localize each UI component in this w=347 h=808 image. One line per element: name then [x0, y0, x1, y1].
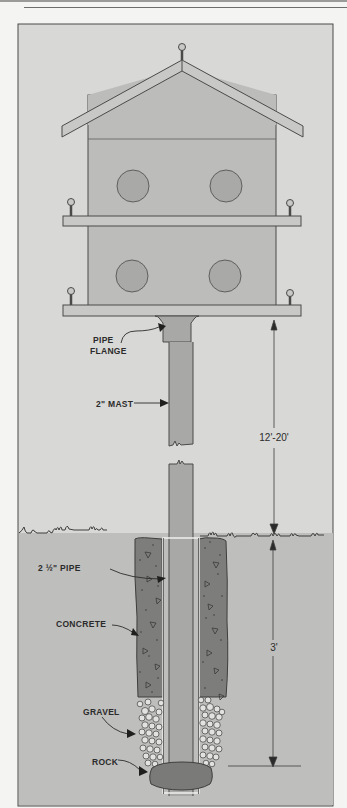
dimension-above-ground-label: 12'-20': [259, 432, 288, 443]
rail-post-icon: [68, 199, 75, 206]
entrance-hole: [210, 170, 242, 202]
pipe-flange-label-line1: PIPE: [93, 335, 114, 345]
mast-lower: [169, 460, 193, 796]
mast-upper: [169, 342, 193, 446]
rail-post-icon: [287, 200, 294, 207]
entrance-hole: [116, 260, 148, 292]
middle-porch-shelf: [63, 216, 301, 226]
rock-base: [150, 762, 213, 790]
concrete-left: [135, 538, 163, 697]
rail-post-icon: [287, 290, 294, 297]
dimension-below-ground-label: 3': [270, 642, 278, 653]
rock-label: ROCK: [92, 757, 119, 767]
pipe-flange-label-line2: FLANGE: [90, 346, 127, 356]
entrance-hole: [209, 260, 241, 292]
bottom-platform: [63, 305, 301, 316]
entrance-hole: [117, 170, 149, 202]
finial-ball-icon: [179, 44, 186, 51]
concrete-label: CONCRETE: [56, 619, 106, 629]
rail-post-icon: [68, 288, 75, 295]
gravel-label: GRAVEL: [83, 707, 120, 717]
birdhouse-diagram: 12'-20' 3' PIPE FLANGE 2" MAST 2 ½" PIPE…: [0, 0, 347, 808]
mast-label: 2" MAST: [96, 399, 134, 409]
concrete-right: [199, 538, 228, 697]
pipe-label: 2 ½" PIPE: [38, 563, 81, 573]
